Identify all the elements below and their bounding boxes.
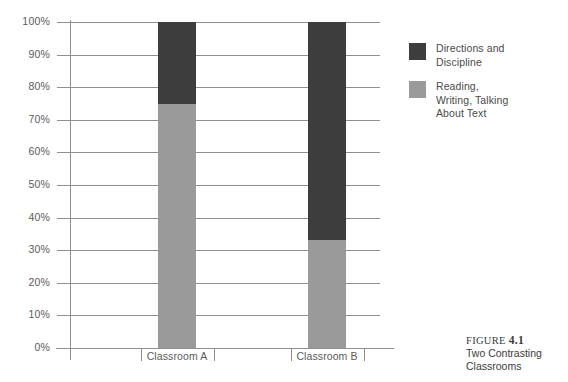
y-axis-tick-label: 50% <box>28 178 50 190</box>
y-axis-tick-label: 10% <box>28 308 50 320</box>
bar-column[interactable] <box>308 22 346 348</box>
y-axis-tick-label: 90% <box>28 48 50 60</box>
y-axis-tick-label: 30% <box>28 243 50 255</box>
legend-label: Directions and Discipline <box>436 42 505 69</box>
y-axis-tick-label: 100% <box>22 15 50 27</box>
y-axis-tick-label: 20% <box>28 276 50 288</box>
y-axis-tick-label: 70% <box>28 113 50 125</box>
x-axis-line <box>56 348 394 349</box>
bar-column[interactable] <box>158 22 196 348</box>
y-axis-tick <box>57 22 70 23</box>
bar-segment[interactable] <box>158 104 196 349</box>
x-axis-category-label: Classroom B <box>282 350 372 362</box>
y-axis-tick-label: 60% <box>28 145 50 157</box>
y-axis-tick <box>57 152 70 153</box>
y-axis-tick-label: 0% <box>34 341 50 353</box>
legend-label: Reading, Writing, Talking About Text <box>436 80 508 121</box>
figure-caption-number: 4.1 <box>509 334 524 346</box>
y-axis-tick <box>57 55 70 56</box>
y-axis-tick <box>57 315 70 316</box>
figure-caption-body: Two Contrasting Classrooms <box>466 347 566 373</box>
chart-legend: Directions and DisciplineReading, Writin… <box>409 42 559 132</box>
legend-entry[interactable]: Reading, Writing, Talking About Text <box>409 80 559 121</box>
y-axis-line <box>70 20 71 360</box>
legend-swatch <box>409 81 426 98</box>
legend-swatch <box>409 43 426 60</box>
y-axis-tick <box>57 283 70 284</box>
y-axis-tick <box>57 250 70 251</box>
bar-segment[interactable] <box>308 240 346 348</box>
figure-caption-title: FIGURE 4.1 <box>466 334 566 347</box>
figure-caption: FIGURE 4.1 Two Contrasting Classrooms <box>466 334 566 373</box>
bar-segment[interactable] <box>308 22 346 240</box>
y-axis-tick-label: 80% <box>28 80 50 92</box>
figure-caption-prefix: FIGURE <box>466 335 509 346</box>
stacked-bar-chart: 0%10%20%30%40%50%60%70%80%90%100% Classr… <box>0 0 568 382</box>
y-axis-tick <box>57 120 70 121</box>
bar-segment[interactable] <box>158 22 196 104</box>
y-axis-tick-label: 40% <box>28 211 50 223</box>
y-axis-tick <box>57 185 70 186</box>
legend-entry[interactable]: Directions and Discipline <box>409 42 559 69</box>
y-axis-tick <box>57 218 70 219</box>
x-axis-category-label: Classroom A <box>132 350 222 362</box>
y-axis-tick <box>57 87 70 88</box>
